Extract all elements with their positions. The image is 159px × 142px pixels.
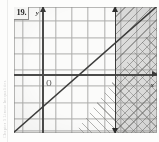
vertical-line-arrow-up-icon [112, 7, 118, 12]
y-axis-label: y [36, 9, 39, 17]
vertical-boundary-line [115, 7, 117, 133]
problem-number-label: 19. [14, 7, 29, 20]
graph-figure: 19. y x O [14, 7, 157, 133]
x-axis-label: x [151, 81, 155, 89]
origin-label: O [46, 79, 51, 88]
scanned-page: Chapter 3 Linear Inequalities 19. y x O [0, 0, 159, 142]
diagonal-boundary-line [14, 7, 157, 133]
vertical-line-arrow-down-icon [112, 128, 118, 133]
margin-rule [7, 0, 8, 142]
